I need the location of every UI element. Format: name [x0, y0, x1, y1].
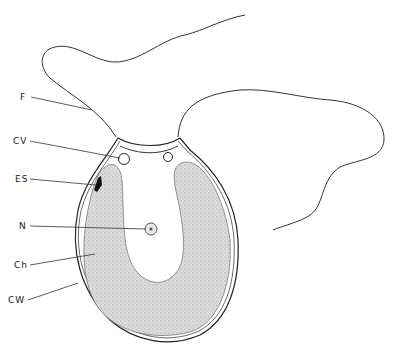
label-contractile-vacuole: CV [13, 136, 27, 146]
contractile-vacuole-left [119, 154, 130, 165]
label-flagellum: F [20, 92, 26, 102]
label-cell-wall: CW [8, 295, 25, 305]
label-chloroplast: Ch [14, 260, 28, 270]
contractile-vacuole-right [164, 153, 173, 162]
flagellum-left [42, 15, 245, 137]
label-eyespot: ES [15, 174, 28, 184]
label-nucleus: N [19, 221, 27, 231]
cell-diagram [0, 0, 396, 355]
